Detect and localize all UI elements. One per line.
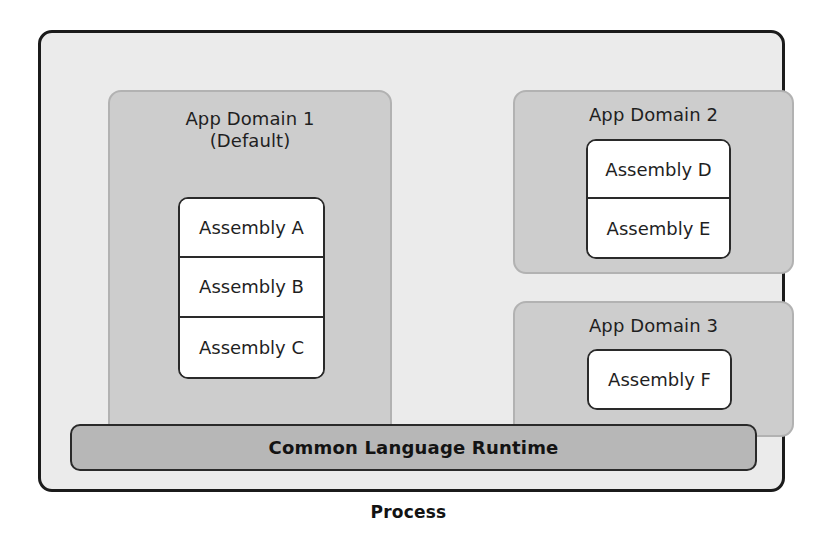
assembly-stack-domain-3: Assembly F [587, 349, 732, 410]
assembly-e: Assembly E [588, 199, 729, 257]
assembly-f: Assembly F [589, 351, 730, 408]
app-domain-2-box: App Domain 2 Assembly D Assembly E [513, 90, 794, 274]
app-domain-2-title: App Domain 2 [515, 104, 792, 126]
assembly-d: Assembly D [588, 141, 729, 199]
common-language-runtime-label: Common Language Runtime [269, 437, 559, 458]
clr-process-diagram: App Domain 1 (Default) Assembly A Assemb… [0, 0, 817, 535]
app-domain-1-title-line-2: (Default) [110, 130, 390, 152]
diagram-caption: Process [0, 502, 817, 522]
assembly-c: Assembly C [180, 318, 323, 377]
assembly-a: Assembly A [180, 199, 323, 258]
app-domain-2-title-line-1: App Domain 2 [515, 104, 792, 126]
app-domain-3-title-line-1: App Domain 3 [515, 315, 792, 337]
app-domain-3-box: App Domain 3 Assembly F [513, 301, 794, 437]
app-domain-1-box: App Domain 1 (Default) Assembly A Assemb… [108, 90, 392, 437]
app-domain-1-title-line-1: App Domain 1 [110, 108, 390, 130]
app-domain-3-title: App Domain 3 [515, 315, 792, 337]
common-language-runtime-bar: Common Language Runtime [70, 424, 757, 471]
assembly-stack-domain-1: Assembly A Assembly B Assembly C [178, 197, 325, 379]
process-container: App Domain 1 (Default) Assembly A Assemb… [38, 30, 785, 492]
app-domain-1-title: App Domain 1 (Default) [110, 108, 390, 152]
assembly-b: Assembly B [180, 258, 323, 317]
assembly-stack-domain-2: Assembly D Assembly E [586, 139, 731, 259]
